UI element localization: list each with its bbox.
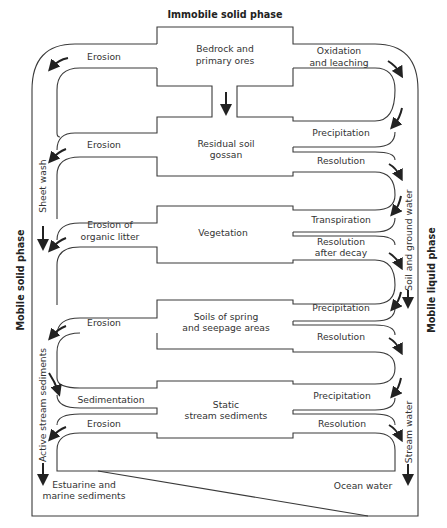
sink-estuarine-line1: Estuarine and: [52, 479, 116, 490]
arrow-erosion-1: [52, 58, 68, 67]
process-resolution-2: Resolution: [317, 331, 365, 342]
process-resolution-1: Resolution: [317, 155, 365, 166]
process-resolution-decay-line2: after decay: [315, 247, 368, 258]
arrow-resolution-1: [389, 164, 400, 176]
sink-divider-line: [98, 471, 368, 516]
stage-bedrock-line2: primary ores: [196, 55, 255, 66]
stage-bedrock-line1: Bedrock and: [196, 43, 254, 54]
arrow-erosion-litter: [52, 238, 66, 248]
process-erosion-2: Erosion: [87, 139, 121, 150]
process-oxidation-line2: and leaching: [309, 57, 368, 68]
process-erosion-litter-line1: Erosion of: [87, 219, 133, 230]
arrow-precip-1: [394, 108, 402, 125]
dispersion-cycle-diagram: Immobile solid phase Mobile solid phase …: [0, 0, 447, 528]
channel-soil-ground-water: Soil and ground water: [403, 189, 414, 291]
stage-residual-line2: gossan: [210, 149, 243, 160]
process-precipitation-3: Precipitation: [313, 390, 371, 401]
process-sedimentation: Sedimentation: [77, 394, 144, 405]
process-transpiration: Transpiration: [310, 214, 371, 225]
process-oxidation-line1: Oxidation: [317, 45, 361, 56]
title-immobile-solid-phase: Immobile solid phase: [168, 9, 283, 20]
stage-spring-line1: Soils of spring: [194, 311, 259, 322]
stage-vegetation: Vegetation: [198, 227, 248, 238]
stage-static-line2: stream sediments: [185, 410, 268, 421]
arrow-precip-2: [394, 292, 401, 307]
label-mobile-liquid-phase: Mobile liquid phase: [426, 227, 437, 333]
sink-ocean-water: Ocean water: [334, 480, 393, 491]
arrow-resolution-decay: [389, 253, 400, 265]
stage-residual-line1: Residual soil: [197, 138, 254, 149]
channel-sheet-wash: Sheet wash: [37, 159, 48, 212]
stage-spring-line2: and seepage areas: [182, 322, 270, 333]
arrow-erosion-4: [52, 427, 66, 437]
process-resolution-decay-line1: Resolution: [317, 236, 365, 247]
arrow-resolution-3: [389, 425, 400, 437]
arrow-erosion-2: [52, 149, 66, 159]
process-erosion-1: Erosion: [87, 51, 121, 62]
channel-stream-water: Stream water: [403, 401, 414, 464]
arrow-precip-3: [394, 378, 401, 394]
arrow-resolution-2: [389, 338, 400, 350]
process-erosion-litter-line2: organic litter: [81, 231, 140, 242]
arrow-oxidation: [388, 61, 400, 73]
sink-estuarine-line2: marine sediments: [43, 490, 126, 501]
process-precipitation-1: Precipitation: [312, 127, 370, 138]
process-resolution-3: Resolution: [318, 418, 366, 429]
label-mobile-solid-phase: Mobile solid phase: [15, 229, 26, 330]
process-erosion-3: Erosion: [87, 317, 121, 328]
process-precipitation-2: Precipitation: [312, 302, 370, 313]
stage-static-line1: Static: [213, 399, 239, 410]
channel-active-stream-sediments: Active stream sediments: [37, 348, 48, 462]
process-erosion-4: Erosion: [87, 418, 121, 429]
